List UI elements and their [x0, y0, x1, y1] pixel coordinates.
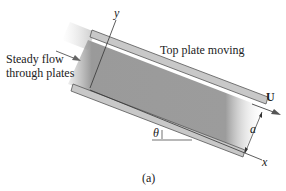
y-axis-label: y: [114, 6, 119, 20]
inflow-label-line1: Steady flow: [6, 52, 64, 66]
angle-label: θ: [153, 126, 159, 140]
velocity-arrowhead-icon: [271, 109, 281, 115]
velocity-label: U: [266, 90, 275, 104]
gap-label: a: [250, 122, 256, 136]
x-axis-label: x: [262, 155, 267, 169]
top-plate-label: Top plate moving: [160, 43, 244, 57]
inflow-label-line2: through plates: [6, 66, 74, 80]
inflow-arrowhead-icon: [72, 55, 81, 61]
channel-flow-diagram: [0, 0, 286, 191]
gap-arrowhead-bottom-icon: [245, 147, 248, 153]
figure-caption: (a): [142, 171, 155, 185]
